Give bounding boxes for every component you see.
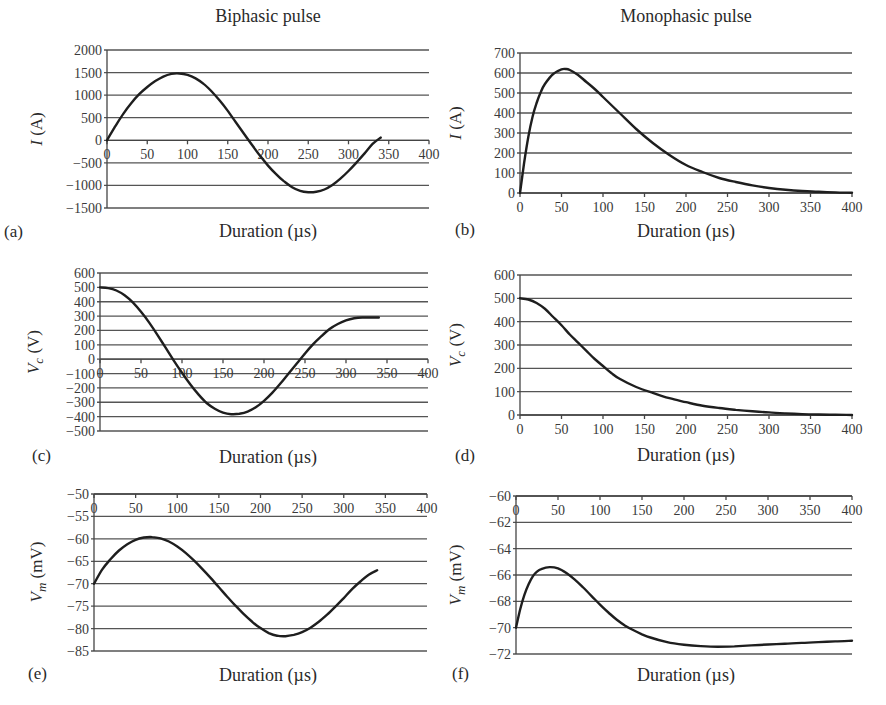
y-tick-label: 200 [494,146,515,161]
x-tick-label: 400 [842,200,863,215]
data-line-i [520,69,852,193]
y-tick-label: −300 [66,395,95,410]
y-tick-label: −72 [489,647,511,662]
x-tick-label: 250 [295,366,316,381]
y-axis-label: I (A) [27,112,46,147]
y-tick-label: 300 [494,338,515,353]
x-tick-label: 350 [800,503,821,518]
y-tick-label: 500 [74,280,95,295]
x-tick-label: 150 [634,200,655,215]
y-tick-label: −500 [73,156,102,171]
chart-panel-c: 6005004003002001000−100−200−300−400−5000… [24,266,439,468]
y-tick-label: 500 [494,86,515,101]
y-tick-label: −1500 [66,201,102,216]
x-tick-label: 200 [676,200,697,215]
x-axis-label: Duration (µs) [219,447,317,468]
chart-title: Monophasic pulse [620,6,751,26]
x-tick-label: 200 [676,422,697,437]
y-tick-label: −66 [489,568,511,583]
x-tick-label: 0 [517,200,524,215]
data-line-vc [100,287,379,414]
x-tick-label: 50 [555,422,569,437]
y-tick-label: −70 [489,621,511,636]
y-tick-label: −500 [66,424,95,439]
x-tick-label: 400 [842,503,863,518]
y-tick-label: −400 [66,410,95,425]
x-tick-label: 100 [593,422,614,437]
x-tick-label: 250 [716,503,737,518]
x-axis-label: Duration (µs) [637,665,735,686]
y-axis-label: I (A) [446,106,465,141]
y-tick-label: −50 [67,487,89,502]
chart-panel-f: −60−62−64−66−68−70−720501001502002503003… [446,489,863,686]
y-tick-label: −55 [67,509,89,524]
x-tick-label: 300 [759,200,780,215]
panel-label: (b) [455,220,475,239]
y-tick-label: −60 [67,532,89,547]
x-tick-label: 0 [104,147,111,162]
panel-label: (c) [32,446,51,465]
y-tick-label: 100 [494,385,515,400]
y-tick-label: 700 [494,46,515,61]
y-tick-label: 100 [74,338,95,353]
y-tick-label: −64 [489,542,511,557]
panel-label: (d) [455,446,475,465]
x-tick-label: 100 [590,503,611,518]
y-tick-label: 1000 [74,88,102,103]
x-tick-label: 200 [674,503,695,518]
x-tick-label: 150 [632,503,653,518]
chart-panel-e: −50−55−60−65−70−75−80−850501001502002503… [27,487,438,686]
x-tick-label: 0 [517,422,524,437]
y-tick-label: −62 [489,515,511,530]
x-tick-label: 150 [217,147,238,162]
figure-canvas: Biphasic pulse2000150010005000−500−1000−… [0,0,886,705]
y-tick-label: −80 [67,622,89,637]
chart-panel-b: Monophasic pulse700600500400300200100005… [446,6,863,242]
x-tick-label: 350 [378,147,399,162]
y-tick-label: −70 [67,577,89,592]
x-tick-label: 200 [250,501,271,516]
y-tick-label: 1500 [74,66,102,81]
chart-title: Biphasic pulse [215,6,321,26]
y-tick-label: 600 [494,66,515,81]
x-tick-label: 50 [551,503,565,518]
data-line-i [107,73,381,192]
x-tick-label: 350 [800,200,821,215]
x-tick-label: 100 [593,200,614,215]
data-line-vm [94,537,377,636]
x-tick-label: 250 [298,147,319,162]
x-axis-label: Duration (µs) [637,221,735,242]
y-tick-label: 500 [494,291,515,306]
x-tick-label: 300 [333,501,354,516]
x-tick-label: 100 [167,501,188,516]
x-tick-label: 300 [336,366,357,381]
x-tick-label: 400 [419,147,440,162]
x-tick-label: 300 [759,422,780,437]
data-line-vm [516,567,852,647]
x-tick-label: 150 [208,501,229,516]
y-tick-label: 400 [74,295,95,310]
x-tick-label: 50 [140,147,154,162]
x-tick-label: 200 [254,366,275,381]
panel-label: (f) [452,664,469,683]
x-tick-label: 350 [800,422,821,437]
chart-panel-d: 6005004003002001000050100150200250300350… [446,268,863,466]
x-tick-label: 350 [375,501,396,516]
x-axis-label: Duration (µs) [219,221,317,242]
y-tick-label: −75 [67,599,89,614]
y-tick-label: 0 [95,133,102,148]
chart-panel-a: Biphasic pulse2000150010005000−500−1000−… [4,6,440,242]
y-axis-label: Vc (V) [446,323,468,367]
x-tick-label: 100 [177,147,198,162]
y-tick-label: 500 [81,111,102,126]
y-tick-label: −100 [66,367,95,382]
y-tick-label: −1000 [66,178,102,193]
x-tick-label: 250 [717,422,738,437]
y-tick-label: 600 [74,266,95,281]
x-tick-label: 0 [97,366,104,381]
x-tick-label: 400 [417,501,438,516]
y-tick-label: −68 [489,594,511,609]
x-tick-label: 350 [377,366,398,381]
x-tick-label: 400 [418,366,439,381]
y-tick-label: 200 [494,361,515,376]
